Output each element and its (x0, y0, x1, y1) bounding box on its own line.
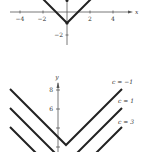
x-tick-label: 2 (88, 15, 92, 22)
y-axis-arrow-icon (66, 0, 69, 2)
y-tick-label: 8 (49, 86, 53, 93)
figure: x −4 −2 2 4 −2 y 8 6 c = −1 (0, 0, 142, 152)
bottom-chart: y 8 6 c = −1 c = 1 c = 3 (10, 73, 134, 152)
x-tick-label: 4 (111, 15, 115, 22)
x-tick-label: −4 (16, 15, 25, 22)
y-tick-label: 6 (49, 105, 53, 112)
x-tick-label: −2 (38, 15, 47, 22)
top-chart: x −4 −2 2 4 −2 (10, 0, 139, 45)
curve-label-c-3: c = 3 (118, 118, 134, 125)
y-tick-label: −2 (54, 31, 63, 38)
y-axis-arrow-icon (57, 82, 60, 88)
v-graph-c-3 (10, 127, 122, 152)
y-axis-label: y (54, 73, 59, 81)
x-axis-arrow-icon (128, 11, 133, 14)
vertex-point (65, 21, 68, 24)
x-axis-label: x (135, 8, 139, 15)
v-graph-c-neg1 (10, 89, 122, 145)
curve-label-c-1: c = 1 (118, 97, 134, 104)
curve-label-c-neg1: c = −1 (112, 78, 133, 85)
